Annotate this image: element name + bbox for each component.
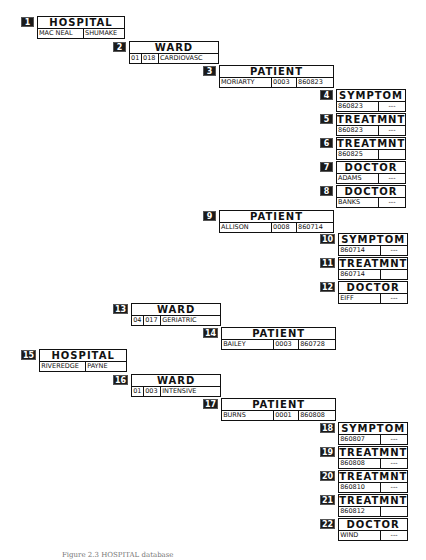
field: 860808 <box>339 459 381 468</box>
segment-number-badge: 21 <box>320 495 335 505</box>
segment-type: TREATMNT <box>339 258 407 270</box>
segment-treatment: 19 TREATMNT 860808--- <box>320 446 408 469</box>
treatment-box: TREATMNT 860810--- <box>338 470 408 493</box>
symptom-box: SYMPTOM 860714--- <box>338 233 408 256</box>
field: --- <box>381 459 407 468</box>
treatment-box: TREATMNT 860808--- <box>338 446 408 469</box>
segment-type: SYMPTOM <box>339 423 407 435</box>
field: --- <box>379 126 405 135</box>
field: ALLISON <box>220 223 272 232</box>
patient-box: PATIENT MORIARTY0003860823 <box>219 65 334 88</box>
field: 003 <box>144 387 161 396</box>
field: 0001 <box>274 411 299 420</box>
segment-type: TREATMNT <box>339 495 407 507</box>
segment-type: SYMPTOM <box>339 234 407 246</box>
field: --- <box>379 198 405 207</box>
segment-number-badge: 16 <box>113 375 128 385</box>
field: 860823 <box>337 126 379 135</box>
segment-type: WARD <box>132 304 220 316</box>
segment-number-badge: 13 <box>113 304 128 314</box>
field: 860728 <box>299 340 335 349</box>
field: 01 <box>130 54 142 63</box>
doctor-box: DOCTOR ADAMS--- <box>336 161 406 184</box>
segment-treatment: 20 TREATMNT 860810--- <box>320 470 408 493</box>
segment-type: TREATMNT <box>339 471 407 483</box>
field: 860823 <box>337 102 379 111</box>
field: 017 <box>144 316 161 325</box>
field: 860714 <box>339 270 381 279</box>
ward-box: WARD 04017GERIATRIC <box>131 303 221 326</box>
segment-type: PATIENT <box>222 328 335 340</box>
segment-number-badge: 14 <box>203 328 218 338</box>
segment-number-badge: 10 <box>320 234 335 244</box>
figure-caption: Figure 2.3 HOSPITAL database <box>62 551 174 559</box>
ward-box: WARD 01018CARDIOVASC <box>129 41 219 64</box>
segment-number-badge: 22 <box>320 519 335 529</box>
patient-box: PATIENT ALLISON0008860714 <box>219 210 334 233</box>
segment-type: DOCTOR <box>339 519 407 531</box>
field: --- <box>381 435 407 444</box>
field: CARDIOVASC <box>159 54 218 63</box>
segment-number-badge: 3 <box>203 66 216 76</box>
segment-patient: 17 PATIENT BURNS0001860808 <box>203 398 336 421</box>
segment-treatment: 11 TREATMNT 860714 <box>320 257 408 280</box>
field: BURNS <box>222 411 274 420</box>
doctor-box: DOCTOR EIFF--- <box>338 281 408 304</box>
symptom-box: SYMPTOM 860823--- <box>336 89 406 112</box>
field: --- <box>381 531 407 540</box>
segment-doctor: 22 DOCTOR WIND--- <box>320 518 408 541</box>
field: 860812 <box>339 507 381 516</box>
segment-number-badge: 18 <box>320 423 335 433</box>
field: PAYNE <box>86 362 126 371</box>
segment-symptom: 10 SYMPTOM 860714--- <box>320 233 408 256</box>
segment-number-badge: 1 <box>21 17 34 27</box>
segment-number-badge: 17 <box>203 399 218 409</box>
segment-number-badge: 15 <box>21 350 36 360</box>
segment-treatment: 5 TREATMNT 860823--- <box>320 113 406 136</box>
segment-patient: 14 PATIENT BAILEY0003860728 <box>203 327 336 350</box>
segment-doctor: 8 DOCTOR BANKS--- <box>320 185 406 208</box>
field: 860714 <box>297 223 333 232</box>
segment-patient: 3 PATIENT MORIARTY0003860823 <box>203 65 334 88</box>
treatment-box: TREATMNT 860825 <box>336 137 406 160</box>
segment-type: TREATMNT <box>337 138 405 150</box>
segment-number-badge: 8 <box>320 186 333 196</box>
segment-type: DOCTOR <box>337 162 405 174</box>
segment-type: TREATMNT <box>339 447 407 459</box>
segment-symptom: 4 SYMPTOM 860823--- <box>320 89 406 112</box>
field: 860808 <box>299 411 335 420</box>
segment-number-badge: 9 <box>203 211 216 221</box>
segment-type: DOCTOR <box>339 282 407 294</box>
segment-type: SYMPTOM <box>337 90 405 102</box>
doctor-box: DOCTOR WIND--- <box>338 518 408 541</box>
doctor-box: DOCTOR BANKS--- <box>336 185 406 208</box>
field <box>381 270 407 279</box>
segment-type: WARD <box>132 375 220 387</box>
field: 01 <box>132 387 144 396</box>
segment-hospital: 1 HOSPITAL MAC NEALSHUMAKE <box>21 16 125 39</box>
treatment-box: TREATMNT 860812 <box>338 494 408 517</box>
segment-ward: 13 WARD 04017GERIATRIC <box>113 303 221 326</box>
field: BANKS <box>337 198 379 207</box>
field: SHUMAKE <box>84 29 124 38</box>
field: MORIARTY <box>220 78 272 87</box>
field: ADAMS <box>337 174 379 183</box>
segment-number-badge: 5 <box>320 114 333 124</box>
segment-type: PATIENT <box>220 211 333 223</box>
treatment-box: TREATMNT 860823--- <box>336 113 406 136</box>
field: --- <box>381 483 407 492</box>
field: 860714 <box>339 246 381 255</box>
segment-type: HOSPITAL <box>40 350 126 362</box>
field: --- <box>379 102 405 111</box>
segment-doctor: 7 DOCTOR ADAMS--- <box>320 161 406 184</box>
field: EIFF <box>339 294 381 303</box>
segment-doctor: 12 DOCTOR EIFF--- <box>320 281 408 304</box>
field: 860823 <box>297 78 333 87</box>
segment-ward: 2 WARD 01018CARDIOVASC <box>113 41 219 64</box>
field: 0003 <box>274 340 299 349</box>
segment-type: TREATMNT <box>337 114 405 126</box>
symptom-box: SYMPTOM 860807--- <box>338 422 408 445</box>
segment-type: HOSPITAL <box>38 17 124 29</box>
segment-number-badge: 4 <box>320 90 333 100</box>
field: RIVEREDGE <box>40 362 86 371</box>
